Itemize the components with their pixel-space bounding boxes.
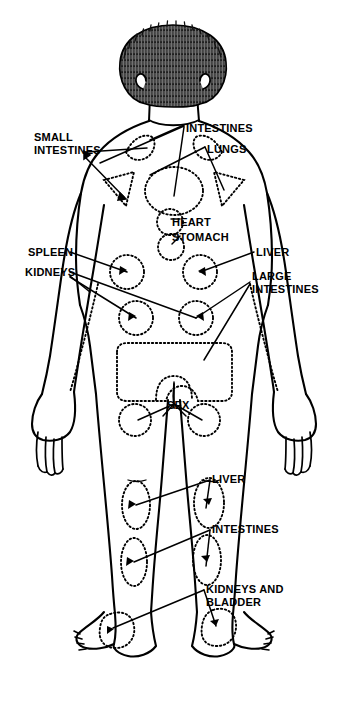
label-kidneys-bladder: KIDNEYS AND BLADDER [206,583,284,608]
zone-buttock-left [119,404,151,436]
label-large-intestines: LARGE INTESTINES [252,270,319,295]
label-liver-upper: LIVER [256,246,289,259]
label-lungs: LUNGS [207,143,247,156]
label-liver-leg: LIVER [212,473,245,486]
zone-heel-right [202,609,237,646]
label-stomach: STOMACH [172,231,229,244]
label-kidneys: KIDNEYS [25,266,75,279]
zone-scapula-left [104,172,134,206]
label-sex: SEX [167,399,190,412]
label-small-intestines: SMALL INTESTINES [34,131,101,156]
label-heart: HEART [172,216,211,229]
label-intestines-top: INTESTINES [186,122,253,135]
zone-heel-left [100,613,135,649]
zone-buttock-right [188,404,220,436]
label-intestines-leg: INTESTINES [212,523,279,536]
reflexology-diagram: SMALL INTESTINES INTESTINES LUNGS HEART … [0,0,348,712]
head [120,21,227,125]
body-figure-svg [0,0,348,712]
label-spleen: SPLEEN [28,246,73,259]
